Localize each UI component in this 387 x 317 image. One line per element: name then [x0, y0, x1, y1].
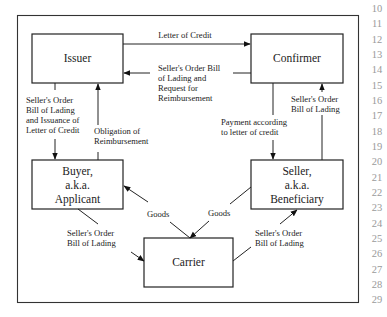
node-buyer: Buyer, a.k.a. Applicant	[32, 160, 123, 209]
svg-text:of Lading and: of Lading and	[158, 73, 207, 83]
seller-label-line2: a.k.a.	[285, 179, 310, 191]
svg-text:to letter of credit: to letter of credit	[221, 127, 279, 137]
line-number: 11	[372, 18, 382, 29]
svg-text:Seller's Order: Seller's Order	[67, 228, 114, 238]
line-number: 15	[372, 80, 383, 91]
line-number: 14	[372, 64, 383, 75]
edge-buyer-to-issuer: Obligation of Reimbursement	[94, 84, 149, 160]
arrow-up-right-icon	[280, 210, 297, 224]
arrow-up-left-icon	[124, 186, 148, 202]
line-number: 28	[372, 279, 383, 290]
line-number: 22	[372, 187, 383, 198]
node-confirmer: Confirmer	[251, 34, 343, 83]
confirmer-label: Confirmer	[273, 52, 321, 64]
edge-issuer-to-confirmer: Letter of Credit	[123, 30, 250, 44]
svg-text:Obligation of: Obligation of	[94, 126, 140, 136]
line-number: 16	[372, 95, 383, 106]
line-number: 25	[372, 233, 383, 244]
svg-text:Seller's Order Bill: Seller's Order Bill	[158, 63, 221, 73]
line-number: 23	[372, 202, 383, 213]
svg-text:Bill of Lading: Bill of Lading	[26, 105, 75, 115]
edge-issuer-to-buyer: Seller's Order Bill of Lading and Issuan…	[26, 83, 80, 159]
svg-text:Seller's Order: Seller's Order	[255, 228, 302, 238]
line-number: 10	[372, 3, 383, 14]
line-number: 27	[372, 264, 383, 275]
line-number-gutter: 10 11 12 13 14 15 16 17 18 19 20 21 22 2…	[372, 3, 383, 305]
node-seller: Seller, a.k.a. Beneficiary	[251, 160, 343, 209]
svg-text:Reimbursement: Reimbursement	[158, 93, 213, 103]
svg-text:Request for: Request for	[158, 83, 198, 93]
edge-carrier-to-seller: Seller's Order Bill of Lading	[233, 210, 304, 261]
svg-text:Bill of Lading: Bill of Lading	[291, 104, 340, 114]
buyer-label-line1: Buyer,	[62, 165, 93, 178]
edge-seller-to-confirmer: Seller's Order Bill of Lading	[291, 84, 340, 160]
edge-confirmer-to-seller: Payment according to letter of credit	[221, 83, 288, 159]
line-number: 20	[372, 156, 383, 167]
svg-text:Reimbursement: Reimbursement	[94, 136, 149, 146]
letter-of-credit-diagram: Issuer Confirmer Buyer, a.k.a. Applicant…	[0, 0, 387, 317]
line-number: 26	[372, 248, 383, 259]
svg-text:Bill of Lading: Bill of Lading	[255, 238, 304, 248]
edge-seller-to-carrier: Goods	[190, 187, 251, 238]
line-number: 17	[372, 110, 383, 121]
issuer-label: Issuer	[64, 52, 92, 64]
svg-text:Seller's Order: Seller's Order	[26, 95, 73, 105]
buyer-label-line3: Applicant	[55, 193, 101, 206]
seller-label-line1: Seller,	[282, 165, 311, 178]
svg-text:and Issuance of: and Issuance of	[26, 115, 80, 125]
edge-carrier-to-buyer: Goods	[124, 186, 190, 238]
line-number: 18	[372, 126, 383, 137]
line-number: 24	[372, 218, 383, 229]
svg-text:Payment according: Payment according	[221, 117, 288, 127]
node-issuer: Issuer	[32, 34, 123, 83]
svg-text:Letter of Credit: Letter of Credit	[26, 125, 80, 135]
seller-label-line3: Beneficiary	[270, 193, 324, 206]
svg-text:Goods: Goods	[147, 209, 170, 219]
svg-text:Letter of Credit: Letter of Credit	[158, 30, 212, 40]
buyer-label-line2: a.k.a.	[65, 179, 90, 191]
line-number: 13	[372, 49, 383, 60]
node-carrier: Carrier	[144, 238, 233, 287]
edge-confirmer-to-issuer: Seller's Order Bill of Lading and Reques…	[124, 63, 251, 103]
edge-buyer-to-carrier: Seller's Order Bill of Lading	[67, 209, 144, 261]
carrier-label: Carrier	[172, 256, 205, 268]
line-number: 12	[372, 34, 383, 45]
svg-text:Seller's Order: Seller's Order	[291, 94, 338, 104]
line-number: 19	[372, 141, 383, 152]
arrow-down-left-icon	[190, 221, 209, 238]
arrow-down-right-icon	[131, 252, 144, 261]
svg-text:Goods: Goods	[208, 208, 231, 218]
line-number: 29	[372, 294, 383, 305]
line-number: 21	[372, 172, 383, 183]
svg-text:Bill of Lading: Bill of Lading	[67, 238, 116, 248]
